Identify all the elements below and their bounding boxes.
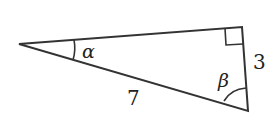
short-leg-label: 3: [253, 50, 266, 74]
alpha-label: α: [82, 40, 95, 62]
alpha-arc: [73, 40, 75, 60]
right-angle-marker: [225, 28, 243, 45]
hypotenuse-label: 7: [127, 86, 140, 110]
beta-label: β: [217, 69, 229, 91]
triangle-diagram: α β 7 3: [0, 0, 273, 129]
